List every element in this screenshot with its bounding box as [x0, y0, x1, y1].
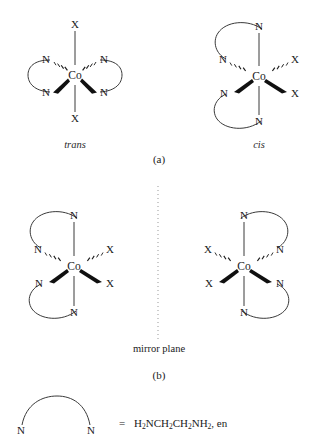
bond-hashed-upper-left: [54, 62, 67, 70]
atom-label-Co-center: Co: [252, 70, 266, 82]
atom-label-N-lower-left: N: [220, 87, 228, 99]
atom-label-N-lower-right: N: [276, 277, 284, 289]
atom-label-N-upper-right: N: [100, 53, 108, 65]
legend-atom-label-N-right: N: [87, 424, 95, 436]
diagram-canvas: X X N N N N Co trans: [0, 0, 319, 438]
legend-formula: H2NCH2CH2NH2, en: [134, 417, 227, 431]
atom-label-X-upper-right: X: [291, 53, 299, 65]
bond-wedge-lower-right: [79, 269, 102, 284]
atom-label-X-upper-left: X: [204, 243, 212, 255]
legend-chelate-arc: [22, 396, 90, 425]
bond-wedge-lower-left: [234, 79, 254, 94]
atom-label-X-lower-left: X: [205, 277, 213, 289]
bond-hashed-upper-right: [83, 62, 96, 70]
atom-label-N-upper-right: N: [276, 243, 284, 255]
structure-enantiomer-right: N N X X N N Co: [204, 209, 289, 318]
bond-hashed-upper-left: [215, 253, 231, 262]
atom-label-Co-center: Co: [68, 69, 82, 81]
bond-hashed-upper-right: [272, 63, 288, 72]
atom-label-N-upper-left: N: [34, 243, 42, 255]
atom-label-N-top: N: [70, 209, 78, 221]
structure-cis: N N N N X X Co cis: [214, 20, 299, 150]
atom-label-X-lower-right: X: [291, 87, 299, 99]
bond-hashed-upper-right: [87, 253, 103, 262]
bond-wedge-lower-right: [264, 79, 287, 94]
bond-wedge-lower-right: [249, 269, 272, 284]
legend-equals-sign: =: [119, 417, 125, 429]
atom-label-N-bottom: N: [255, 115, 263, 127]
bond-hashed-upper-left: [230, 63, 246, 72]
atom-label-X-lower-right: X: [106, 277, 114, 289]
atom-label-X-bottom: X: [71, 112, 79, 124]
atom-label-N-lower-right: N: [100, 86, 108, 98]
atom-label-N-top: N: [240, 209, 248, 221]
isomer-label-cis: cis: [253, 139, 265, 150]
atom-label-N-upper-left: N: [42, 53, 50, 65]
bond-wedge-lower-right: [80, 79, 97, 94]
chelate-arc-lower: [214, 94, 261, 128]
isomer-label-trans: trans: [64, 139, 86, 150]
atom-label-Co-center: Co: [67, 260, 81, 272]
figure-coordination-isomers: X X N N N N Co trans: [0, 0, 319, 438]
structure-trans: X X N N N N Co trans: [28, 18, 122, 150]
atom-label-N-bottom: N: [70, 306, 78, 318]
bond-wedge-lower-left: [49, 269, 69, 284]
bond-wedge-lower-left: [219, 269, 239, 284]
atom-label-N-lower-left: N: [35, 277, 43, 289]
legend-atom-label-N-left: N: [17, 424, 25, 436]
atom-label-N-top: N: [255, 20, 263, 32]
atom-label-N-upper-left: N: [219, 53, 227, 65]
structure-enantiomer-left: N N N N X X Co: [29, 209, 114, 318]
atom-label-N-lower-left: N: [42, 86, 50, 98]
atom-label-X-upper-right: X: [106, 243, 114, 255]
atom-label-X-top: X: [71, 18, 79, 30]
bond-hashed-upper-right: [257, 253, 273, 262]
chelate-arc-lower: [29, 284, 76, 318]
panel-label-a: (a): [153, 153, 166, 166]
mirror-plane-label: mirror plane: [133, 343, 186, 354]
atom-label-N-bottom: N: [240, 306, 248, 318]
atom-label-Co-center: Co: [237, 260, 251, 272]
panel-label-b: (b): [153, 369, 166, 382]
legend-ligand-key: N N: [17, 396, 95, 436]
chelate-arc-lower: [242, 284, 289, 318]
bond-hashed-upper-left: [45, 253, 61, 262]
